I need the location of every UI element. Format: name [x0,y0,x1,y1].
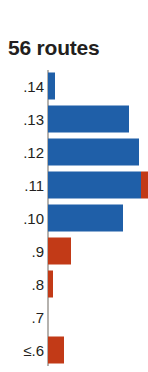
y-axis-tick-label: .13 [23,111,44,128]
y-axis-tick-label: .14 [23,78,44,95]
y-axis-tick-label: .7 [31,308,44,325]
bar-track [48,270,53,297]
bar-segment-blue [48,172,141,199]
bar-row: .7 [0,300,148,333]
bar-segment-red [48,270,53,297]
y-axis-tick-label: .12 [23,144,44,161]
bar-row: .12 [0,136,148,169]
bar-track [48,73,55,100]
bar-segment-red [141,172,148,199]
bar-track [48,106,129,133]
bar-segment-red [48,336,64,363]
y-axis-tick-label: .8 [31,275,44,292]
bar-segment-blue [48,73,55,100]
bar-row: .8 [0,267,148,300]
bar-chart-panel: 56 routes .14.13.12.11.10.9.8.7≤.6 [0,0,148,372]
y-axis-tick-label: .10 [23,209,44,226]
bar-row: .9 [0,234,148,267]
bar-track [48,237,71,264]
bar-segment-blue [48,139,139,166]
bar-track [48,204,123,231]
bar-segment-blue [48,106,129,133]
bar-segment-blue [48,204,123,231]
bar-row: .11 [0,169,148,202]
bar-row: .13 [0,103,148,136]
bar-track [48,139,139,166]
plot-area: .14.13.12.11.10.9.8.7≤.6 [0,70,148,366]
y-axis-tick-label: .9 [31,242,44,259]
bar-row: .14 [0,70,148,103]
y-axis-tick-label: ≤.6 [23,341,44,358]
bar-row: .10 [0,202,148,235]
y-axis-tick-label: .11 [24,177,44,194]
bar-segment-red [48,237,71,264]
bar-track [48,336,64,363]
bar-row: ≤.6 [0,333,148,366]
chart-title: 56 routes [8,36,100,60]
bar-track [48,172,148,199]
